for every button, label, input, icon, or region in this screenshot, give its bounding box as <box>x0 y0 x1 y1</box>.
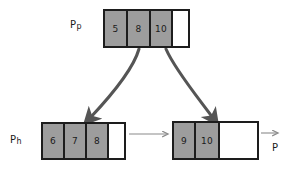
left-child-cell-3 <box>109 124 124 158</box>
left-child-node: 6 7 8 <box>41 122 126 160</box>
right-child-node-label: P <box>272 142 279 153</box>
pointer-arrow-to-right-child <box>166 49 213 118</box>
left-child-cell-0: 6 <box>43 124 65 158</box>
left-child-label-sub: h <box>17 137 22 146</box>
parent-node: 5 8 10 <box>103 9 190 48</box>
parent-label-sub: p <box>77 22 82 31</box>
left-child-cell-2: 8 <box>87 124 109 158</box>
right-child-node: 9 10 <box>172 121 259 160</box>
left-child-cell-1: 7 <box>65 124 87 158</box>
parent-node-label: Pp <box>70 19 82 30</box>
parent-label-main: P <box>70 19 76 30</box>
parent-cell-1: 8 <box>128 11 151 46</box>
diagram-canvas: 5 8 10 Pp 6 7 8 Ph 9 10 P <box>0 0 291 174</box>
left-child-node-label: Ph <box>10 134 22 145</box>
pointer-arrow-to-left-child <box>90 49 139 118</box>
right-child-cell-1: 10 <box>196 123 220 158</box>
parent-cell-3 <box>173 11 188 46</box>
parent-cell-2: 10 <box>151 11 173 46</box>
left-child-label-main: P <box>10 134 16 145</box>
right-child-cell-2 <box>220 123 257 158</box>
right-child-cell-0: 9 <box>174 123 196 158</box>
parent-cell-0: 5 <box>105 11 128 46</box>
right-child-label-main: P <box>272 142 278 153</box>
